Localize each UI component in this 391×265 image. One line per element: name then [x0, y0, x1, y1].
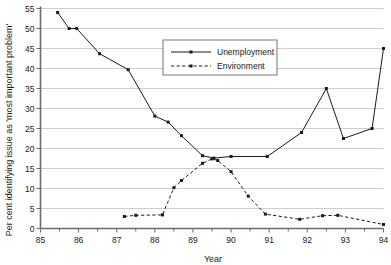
data-point-marker — [123, 215, 126, 218]
x-axis — [41, 229, 384, 233]
y-tick-label: 40 — [25, 64, 35, 74]
data-point-marker — [180, 179, 183, 182]
data-point-marker — [321, 214, 324, 217]
x-axis-title: Year — [204, 254, 222, 264]
y-axis — [37, 7, 41, 229]
legend-marker — [190, 51, 193, 54]
x-tick-label: 92 — [303, 235, 313, 245]
x-tick-label: 85 — [36, 235, 46, 245]
data-point-marker — [75, 27, 78, 30]
x-tick-labels: 85868788899091929394 — [36, 235, 389, 245]
data-point-marker — [264, 213, 267, 216]
y-tick-label: 15 — [25, 164, 35, 174]
y-tick-label: 0 — [30, 224, 35, 234]
series-environment — [123, 157, 385, 226]
data-point-marker — [298, 218, 301, 221]
data-point-marker — [371, 127, 374, 130]
y-tick-label: 30 — [25, 104, 35, 114]
legend-label-environment: Environment — [217, 61, 265, 71]
data-point-marker — [201, 154, 204, 157]
x-tick-label: 91 — [264, 235, 274, 245]
y-tick-label: 25 — [25, 124, 35, 134]
chart-legend: UnemploymentEnvironment — [163, 40, 277, 75]
data-point-marker — [180, 134, 183, 137]
data-point-marker — [98, 52, 101, 55]
data-point-marker — [230, 170, 233, 173]
y-tick-label: 20 — [25, 144, 35, 154]
data-point-marker — [211, 157, 214, 160]
gridlines — [41, 9, 384, 209]
data-point-marker — [161, 213, 164, 216]
x-tick-label: 93 — [341, 235, 351, 245]
x-tick-label: 94 — [379, 235, 389, 245]
series-path — [58, 13, 384, 159]
y-tick-label: 45 — [25, 44, 35, 54]
chart-container: 0510152025303540455055 85868788899091929… — [0, 0, 391, 265]
x-tick-label: 87 — [112, 235, 122, 245]
data-point-marker — [382, 47, 385, 50]
data-point-marker — [201, 162, 204, 165]
data-point-marker — [300, 131, 303, 134]
data-point-marker — [336, 214, 339, 217]
data-point-marker — [266, 155, 269, 158]
y-axis-title: Per cent identifying issue as 'most impo… — [4, 23, 14, 236]
line-chart: 0510152025303540455055 85868788899091929… — [0, 0, 391, 265]
x-tick-label: 90 — [226, 235, 236, 245]
data-point-marker — [342, 137, 345, 140]
y-tick-label: 10 — [25, 184, 35, 194]
data-point-marker — [127, 68, 130, 71]
x-tick-label: 86 — [74, 235, 84, 245]
y-tick-label: 35 — [25, 84, 35, 94]
legend-label-unemployment: Unemployment — [217, 47, 275, 57]
y-tick-labels: 0510152025303540455055 — [25, 4, 35, 234]
data-point-marker — [325, 87, 328, 90]
x-tick-label: 89 — [188, 235, 198, 245]
data-point-marker — [153, 115, 156, 118]
data-point-marker — [68, 27, 71, 30]
data-point-marker — [172, 186, 175, 189]
x-tick-label: 88 — [150, 235, 160, 245]
series-unemployment — [56, 11, 385, 160]
y-tick-label: 55 — [25, 4, 35, 14]
y-tick-label: 50 — [25, 24, 35, 34]
data-point-marker — [134, 214, 137, 217]
legend-marker — [190, 65, 193, 68]
data-point-marker — [56, 11, 59, 14]
data-point-marker — [247, 195, 250, 198]
data-point-marker — [216, 159, 219, 162]
y-tick-label: 5 — [30, 204, 35, 214]
data-point-marker — [167, 121, 170, 124]
data-point-marker — [230, 155, 233, 158]
data-point-marker — [382, 223, 385, 226]
